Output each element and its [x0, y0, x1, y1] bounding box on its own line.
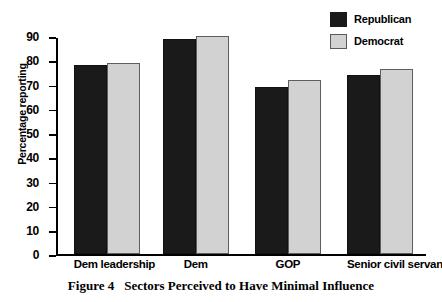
x-axis-category-label: Senior civil servants: [347, 259, 413, 271]
y-axis-tick-label: 70: [26, 79, 39, 93]
legend-swatch-republican: [330, 12, 347, 27]
x-axis-category-label: Dem: [163, 259, 229, 271]
x-axis-category-label: GOP: [255, 259, 321, 271]
bar-group: Senior civil servants: [347, 38, 413, 254]
bar-democrat: [107, 63, 140, 254]
bar-republican: [255, 87, 288, 254]
y-axis-tick: 90: [49, 37, 56, 39]
y-axis-tick-label: 20: [26, 200, 39, 214]
bar-republican: [74, 65, 107, 254]
caption-number: Figure 4: [68, 278, 114, 293]
plot-area: 0102030405060708090 Dem leadershipDemGOP…: [56, 38, 426, 256]
y-axis-tick: 30: [49, 183, 56, 185]
bar-republican: [347, 75, 380, 254]
y-axis-tick: 10: [49, 231, 56, 233]
y-axis-tick: 20: [49, 207, 56, 209]
y-axis-tick: 70: [49, 86, 56, 88]
bar-democrat: [196, 36, 229, 254]
bar-democrat: [288, 80, 321, 254]
bar-group: Dem leadership: [74, 38, 140, 254]
y-axis-tick: 80: [49, 61, 56, 63]
y-axis-tick: 0: [49, 255, 56, 257]
bar-democrat: [380, 69, 413, 254]
figure-container: Republican Democrat Percentage reporting…: [0, 0, 442, 302]
bar-group: GOP: [255, 38, 321, 254]
y-axis-tick: 60: [49, 110, 56, 112]
y-axis-tick-label: 0: [33, 248, 39, 262]
y-axis-tick: 40: [49, 158, 56, 160]
legend-item-republican: Republican: [330, 8, 438, 30]
bar-republican: [163, 39, 196, 255]
bar-group: Dem: [163, 38, 229, 254]
x-axis-category-label: Dem leadership: [74, 259, 140, 271]
bars-area: Dem leadershipDemGOPSenior civil servant…: [58, 38, 426, 254]
x-axis-line: [56, 254, 426, 256]
figure-caption: Figure 4Sectors Perceived to Have Minima…: [0, 278, 442, 294]
y-axis-tick: 50: [49, 134, 56, 136]
y-axis-tick-label: 50: [26, 127, 39, 141]
y-axis-tick-label: 30: [26, 176, 39, 190]
y-axis-tick-label: 80: [26, 54, 39, 68]
y-axis-tick-label: 90: [26, 30, 39, 44]
caption-text: Sectors Perceived to Have Minimal Influe…: [124, 278, 374, 293]
legend-label-republican: Republican: [354, 14, 411, 25]
y-axis-tick-label: 60: [26, 103, 39, 117]
y-axis-tick-label: 40: [26, 151, 39, 165]
y-axis-tick-label: 10: [26, 224, 39, 238]
